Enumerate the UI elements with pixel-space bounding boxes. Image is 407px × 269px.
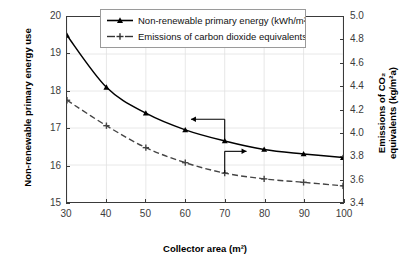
y-left-tick-19: 19 xyxy=(35,47,61,58)
tick-mark xyxy=(340,86,344,87)
tick-mark xyxy=(340,156,344,157)
tick-mark xyxy=(66,16,70,17)
tick-mark xyxy=(66,53,70,54)
legend-key-dashed-plus-icon xyxy=(107,31,133,42)
y-right-tick-4.2: 4.2 xyxy=(350,104,380,115)
legend-key-solid-triangle-icon xyxy=(107,15,133,26)
y-left-tick-15: 15 xyxy=(35,197,61,208)
x-tick-100: 100 xyxy=(329,208,359,219)
y-axis-left-title-line1: Non-renewable primary energy use xyxy=(22,28,33,186)
y-right-tick-3.8: 3.8 xyxy=(350,150,380,161)
tick-mark xyxy=(185,199,186,203)
x-tick-40: 40 xyxy=(91,208,121,219)
y-right-tick-3.4: 3.4 xyxy=(350,197,380,208)
tick-mark xyxy=(340,110,344,111)
tick-mark xyxy=(340,16,344,17)
tick-mark xyxy=(340,203,344,204)
y-left-tick-20: 20 xyxy=(35,10,61,21)
chart-legend: Non-renewable primary energy (kWh/m²a) E… xyxy=(100,9,306,48)
y-left-tick-16: 16 xyxy=(35,160,61,171)
legend-item-1: Emissions of carbon dioxide equivalents xyxy=(107,30,306,43)
legend-label-0: Non-renewable primary energy (kWh/m²a) xyxy=(138,15,306,26)
y-left-tick-18: 18 xyxy=(35,85,61,96)
x-tick-60: 60 xyxy=(170,208,200,219)
y-axis-right-title-line2: equivalents (kg/m²a) xyxy=(387,67,398,159)
y-axis-left-title: Non-renewable primary energy use xyxy=(22,28,33,188)
tick-mark xyxy=(304,199,305,203)
tick-mark xyxy=(66,166,70,167)
legend-key-none-icon xyxy=(107,47,133,48)
legend-item-2-clipped: (kg/m²a) xyxy=(107,46,173,48)
tick-mark xyxy=(66,91,70,92)
chart-figure: Non-renewable primary energy use Emissio… xyxy=(0,0,407,269)
y-right-tick-4.6: 4.6 xyxy=(350,57,380,68)
x-tick-90: 90 xyxy=(289,208,319,219)
tick-mark xyxy=(340,180,344,181)
y-right-tick-4.4: 4.4 xyxy=(350,80,380,91)
series-1 xyxy=(67,97,343,189)
x-tick-70: 70 xyxy=(210,208,240,219)
tick-mark xyxy=(106,199,107,203)
tick-mark xyxy=(225,199,226,203)
y-right-tick-5.0: 5.0 xyxy=(350,10,380,21)
y-right-tick-3.6: 3.6 xyxy=(350,174,380,185)
tick-mark xyxy=(344,199,345,203)
right-axis-arrow-annotation xyxy=(225,149,247,174)
x-axis-title: Collector area (m²) xyxy=(66,243,344,254)
x-tick-50: 50 xyxy=(130,208,160,219)
legend-label-1: Emissions of carbon dioxide equivalents xyxy=(138,31,306,42)
legend-label-2: (kg/m²a) xyxy=(138,47,173,48)
y-right-tick-4.8: 4.8 xyxy=(350,33,380,44)
tick-mark xyxy=(66,199,67,203)
y-left-tick-17: 17 xyxy=(35,122,61,133)
tick-mark xyxy=(265,199,266,203)
x-tick-80: 80 xyxy=(250,208,280,219)
x-tick-30: 30 xyxy=(51,208,81,219)
x-axis-title-text: Collector area (m²) xyxy=(163,243,247,254)
y-right-tick-4.0: 4.0 xyxy=(350,127,380,138)
tick-mark xyxy=(66,203,70,204)
tick-mark xyxy=(340,63,344,64)
tick-mark xyxy=(340,133,344,134)
tick-mark xyxy=(66,128,70,129)
series-0 xyxy=(67,33,343,160)
legend-item-0: Non-renewable primary energy (kWh/m²a) xyxy=(107,14,306,27)
tick-mark xyxy=(340,39,344,40)
tick-mark xyxy=(145,199,146,203)
